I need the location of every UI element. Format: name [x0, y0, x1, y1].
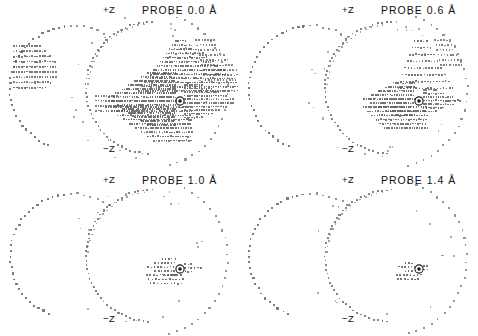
axis-label-plus-z-3: +Z — [342, 174, 354, 185]
dot-surface-plot-1 — [239, 0, 478, 168]
axis-label-plus-z-0: +Z — [103, 4, 115, 15]
panel-title-2: PROBE 1.0 Å — [142, 174, 217, 186]
axis-label-minus-z-3: −Z — [342, 313, 354, 324]
axis-label-minus-z-2: −Z — [103, 313, 115, 324]
axis-label-minus-z-1: −Z — [342, 143, 354, 154]
panel-probe-2: PROBE 1.0 Å +Z −Z — [0, 168, 239, 336]
axis-label-plus-z-1: +Z — [342, 4, 354, 15]
axis-label-plus-z-2: +Z — [103, 174, 115, 185]
dot-surface-plot-3 — [239, 168, 478, 336]
figure-canvas: PROBE 0.0 Å +Z −Z PROBE 0.6 Å +Z −Z PROB… — [0, 0, 478, 336]
dot-surface-plot-0 — [0, 0, 239, 168]
axis-label-minus-z-0: −Z — [103, 143, 115, 154]
dot-surface-plot-2 — [0, 168, 239, 336]
panel-title-1: PROBE 0.6 Å — [381, 4, 456, 16]
panel-probe-1: PROBE 0.6 Å +Z −Z — [239, 0, 478, 168]
panel-title-3: PROBE 1.4 Å — [381, 174, 456, 186]
panel-probe-3: PROBE 1.4 Å +Z −Z — [239, 168, 478, 336]
panel-probe-0: PROBE 0.0 Å +Z −Z — [0, 0, 239, 168]
panel-title-0: PROBE 0.0 Å — [142, 4, 217, 16]
